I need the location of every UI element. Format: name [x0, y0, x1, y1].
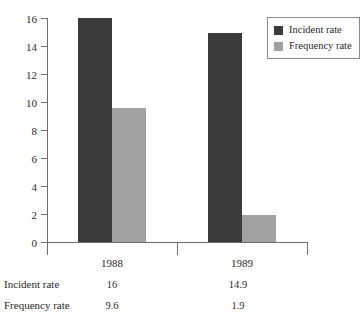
y-axis-tick-label: 8: [32, 125, 38, 136]
x-axis-tick: [47, 242, 48, 255]
y-axis-tick-label: 16: [26, 13, 37, 24]
bar-incident-rate-1989: [208, 33, 242, 242]
x-axis-tick: [307, 242, 308, 255]
light-swatch-icon: [274, 42, 283, 51]
chart-legend: Incident rate Frequency rate: [267, 17, 360, 59]
y-axis-tick-label: 2: [32, 209, 38, 220]
table-cell-value: 16: [107, 280, 118, 291]
category-label-1989: 1989: [231, 258, 253, 269]
y-axis-tick: 12: [41, 74, 47, 75]
bar-frequency-rate-1989: [242, 215, 276, 242]
y-axis-tick-label: 6: [32, 153, 38, 164]
table-cell-value: 14.9: [229, 280, 247, 291]
table-row-label: Frequency rate: [4, 300, 70, 311]
legend-entry-incident-rate: Incident rate: [274, 23, 352, 37]
y-axis-tick-label: 4: [32, 181, 38, 192]
y-axis-tick: 8: [41, 130, 47, 131]
bar-chart-figure: 0246810121416 19881989 Incident rate Fre…: [0, 0, 362, 331]
y-axis-tick-label: 12: [26, 69, 37, 80]
y-axis-tick: 2: [41, 214, 47, 215]
category-label-1988: 1988: [101, 258, 123, 269]
bar-incident-rate-1988: [78, 18, 112, 242]
y-axis-tick: 14: [41, 46, 47, 47]
data-table: Incident rate 16 14.9 Frequency rate 9.6…: [4, 279, 358, 321]
table-row: Incident rate 16 14.9: [4, 279, 358, 300]
dark-swatch-icon: [274, 26, 283, 35]
y-axis-tick-label: 14: [26, 41, 37, 52]
y-axis-line: [47, 18, 48, 242]
y-axis-tick: 6: [41, 158, 47, 159]
y-axis-tick: 4: [41, 186, 47, 187]
table-cell-value: 1.9: [231, 301, 244, 312]
table-row: Frequency rate 9.6 1.9: [4, 300, 358, 321]
table-cell-value: 9.6: [105, 301, 118, 312]
legend-label: Incident rate: [289, 25, 342, 36]
table-row-label: Incident rate: [4, 279, 59, 290]
y-axis-tick-label: 10: [26, 97, 37, 108]
legend-entry-frequency-rate: Frequency rate: [274, 39, 352, 53]
x-axis-tick: [177, 242, 178, 255]
bar-frequency-rate-1988: [112, 108, 146, 242]
y-axis-tick: 16: [41, 18, 47, 19]
y-axis-tick: 10: [41, 102, 47, 103]
legend-label: Frequency rate: [289, 41, 352, 52]
y-axis-tick-label: 0: [32, 237, 38, 248]
